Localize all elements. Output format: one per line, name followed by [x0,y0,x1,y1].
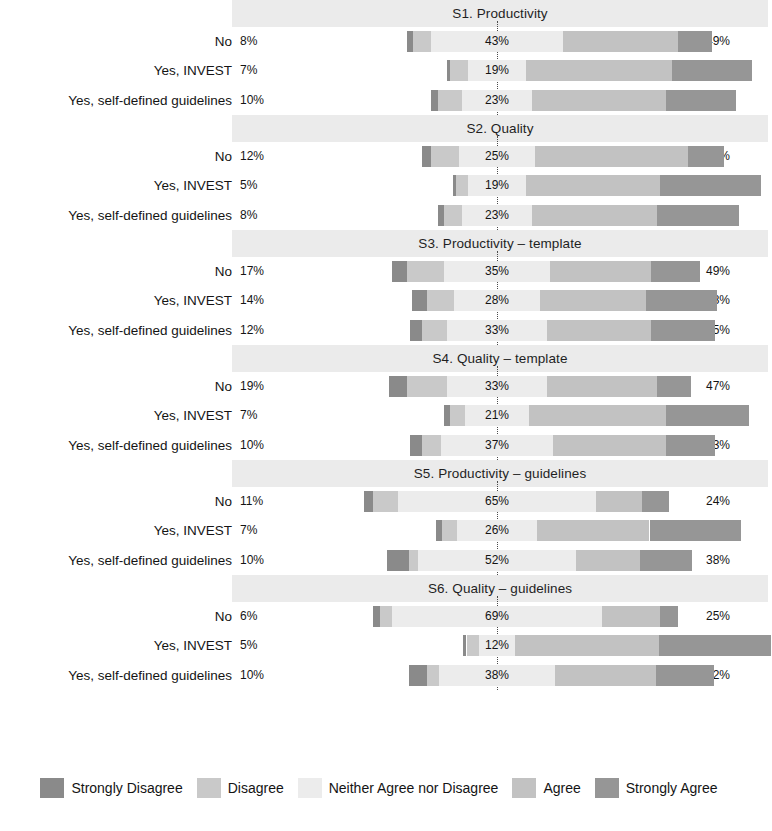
bar-segment-agree [547,320,651,341]
row-group-label: Yes, self-defined guidelines [0,661,232,690]
stacked-bar: 12% [285,635,695,656]
bar-segment-agree [602,606,660,627]
bar-segment-neither [468,60,526,81]
row-group-label: No [0,257,232,286]
bar-segment-agree [540,290,647,311]
bar-segment-strongly-disagree [422,146,431,167]
bar-segment-neither [441,435,554,456]
row-disagree-total: 5% [240,171,274,200]
bar-segment-disagree [431,146,458,167]
chart-panel: S1. ProductivityNo8%49%43%Yes, INVEST7%7… [0,0,772,115]
row-disagree-total: 8% [240,201,274,230]
row-plot-area: 19% [285,171,695,200]
row-group-label: Yes, self-defined guidelines [0,86,232,115]
bar-segment-strongly-agree [660,606,678,627]
chart-row: Yes, self-defined guidelines10%52%38% [0,661,772,690]
row-plot-area: 37% [285,431,695,460]
row-group-label: No [0,142,232,171]
bar-segment-strongly-disagree [392,261,407,282]
bar-segment-strongly-agree [666,90,736,111]
row-group-label: Yes, INVEST [0,631,232,660]
row-plot-area: 38% [285,661,695,690]
stacked-bar: 26% [285,520,695,541]
row-group-label: Yes, INVEST [0,286,232,315]
bar-segment-agree [526,60,672,81]
row-group-label: Yes, INVEST [0,171,232,200]
row-group-label: No [0,602,232,631]
bar-segment-strongly-agree [651,320,715,341]
row-disagree-total: 19% [240,372,274,401]
legend-label: Strongly Disagree [71,780,182,796]
bar-segment-disagree [442,520,457,541]
legend-swatch-icon [512,778,536,798]
chart-row: No11%24%65% [0,487,772,516]
row-group-label: No [0,372,232,401]
row-agree-total: 25% [706,602,750,631]
chart-row: Yes, self-defined guidelines10%53%37% [0,431,772,460]
bar-segment-strongly-agree [657,205,739,226]
legend-item: Disagree [197,778,284,798]
bar-segment-neither [392,606,602,627]
chart-row: Yes, INVEST7%67%26% [0,516,772,545]
bar-segment-disagree [450,60,468,81]
bar-segment-agree [537,520,650,541]
row-plot-area: 21% [285,401,695,430]
bar-segment-strongly-agree [688,146,725,167]
panel-rows: No6%25%69%Yes, INVEST5%84%12%Yes, self-d… [0,602,772,690]
bar-segment-agree [553,435,666,456]
chart-panel: S4. Quality – templateNo19%47%33%Yes, IN… [0,345,772,460]
legend-swatch-icon [298,778,322,798]
legend-label: Agree [543,780,580,796]
stacked-bar: 33% [285,376,695,397]
legend-swatch-icon [595,778,619,798]
row-agree-total: 49% [706,257,750,286]
bar-segment-strongly-agree [666,405,748,426]
stacked-bar: 19% [285,60,695,81]
row-plot-area: 19% [285,56,695,85]
bar-segment-disagree [450,405,465,426]
bar-segment-strongly-disagree [364,491,373,512]
chart-row: No17%49%35% [0,257,772,286]
bar-segment-disagree [407,376,447,397]
stacked-bar: 52% [285,550,695,571]
row-disagree-total: 11% [240,487,274,516]
row-disagree-total: 6% [240,602,274,631]
panel-title: S6. Quality – guidelines [232,575,768,602]
chart-row: Yes, INVEST7%74%19% [0,56,772,85]
bar-segment-strongly-disagree [410,320,422,341]
bar-segment-strongly-disagree [389,376,407,397]
bar-segment-disagree [422,435,440,456]
panel-title: S2. Quality [232,115,768,142]
bar-segment-strongly-agree [640,550,692,571]
stacked-bar: 43% [285,31,695,52]
row-disagree-total: 12% [240,316,274,345]
bar-segment-agree [529,405,666,426]
bar-segment-agree [535,146,688,167]
panel-rows: No11%24%65%Yes, INVEST7%67%26%Yes, self-… [0,487,772,575]
row-plot-area: 69% [285,602,695,631]
stacked-bar: 33% [285,320,695,341]
row-disagree-total: 17% [240,257,274,286]
row-disagree-total: 10% [240,661,274,690]
bar-segment-disagree [422,320,446,341]
row-agree-total: 24% [706,487,750,516]
row-disagree-total: 7% [240,401,274,430]
stacked-bar: 21% [285,405,695,426]
stacked-bar: 23% [285,205,695,226]
panel-rows: No12%62%25%Yes, INVEST5%77%19%Yes, self-… [0,142,772,230]
panel-title: S3. Productivity – template [232,230,768,257]
bar-segment-disagree [380,606,392,627]
row-agree-total: 38% [706,546,750,575]
chart-panel: S2. QualityNo12%62%25%Yes, INVEST5%77%19… [0,115,772,230]
stacked-bar: 37% [285,435,695,456]
bar-segment-disagree [438,90,462,111]
row-group-label: No [0,487,232,516]
row-plot-area: 23% [285,86,695,115]
bar-segment-agree [555,665,656,686]
row-disagree-total: 7% [240,516,274,545]
row-group-label: Yes, self-defined guidelines [0,431,232,460]
row-disagree-total: 10% [240,546,274,575]
row-agree-total: 47% [706,372,750,401]
bar-segment-disagree [413,31,431,52]
bar-segment-agree [596,491,642,512]
